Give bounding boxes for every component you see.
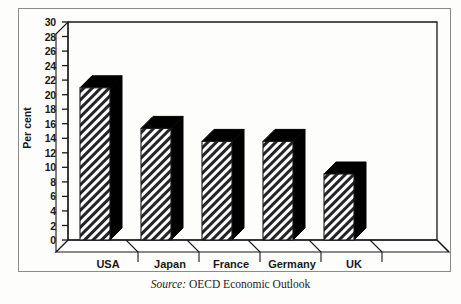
bar-japan-side — [171, 116, 183, 240]
bar-france[interactable] — [202, 129, 244, 240]
x-tick-label-france: France — [201, 258, 261, 270]
chart-page: 30 28 26 24 22 20 18 16 14 12 10 8 6 4 2… — [0, 0, 461, 304]
x-tick-label-usa: USA — [78, 258, 138, 270]
x-tick-label-uk: UK — [324, 258, 384, 270]
y-tick-label: 0 — [34, 235, 56, 245]
y-tick-label: 12 — [34, 148, 56, 158]
bar-france-face — [202, 141, 232, 240]
bar-uk-side — [354, 162, 366, 240]
bar-uk-face — [324, 174, 354, 240]
bar-usa-side — [110, 76, 122, 240]
y-tick-label: 18 — [34, 104, 56, 114]
plot-left-wall — [56, 22, 68, 252]
bar-japan-face — [141, 128, 171, 240]
bar-germany-side — [293, 129, 305, 240]
bar-japan[interactable] — [141, 116, 183, 240]
y-tick-label: 4 — [34, 206, 56, 216]
y-tick-label: 8 — [34, 177, 56, 187]
bar-usa[interactable] — [80, 76, 122, 240]
y-axis-title: Per cent — [21, 93, 33, 163]
x-tick-label-germany: Germany — [260, 258, 324, 270]
y-tick-label: 22 — [34, 75, 56, 85]
bar-usa-face — [80, 88, 110, 240]
y-tick-label: 16 — [34, 119, 56, 129]
y-tick-label: 14 — [34, 133, 56, 143]
y-tick-label: 20 — [34, 90, 56, 100]
y-tick-label: 26 — [34, 46, 56, 56]
plot-floor — [56, 240, 449, 252]
bar-germany[interactable] — [263, 129, 305, 240]
y-tick-label: 24 — [34, 61, 56, 71]
y-tick-label: 30 — [34, 17, 56, 27]
plot-back-wall — [68, 22, 437, 240]
y-tick-label: 28 — [34, 32, 56, 42]
bar-germany-face — [263, 141, 293, 240]
y-tick-label: 10 — [34, 162, 56, 172]
bar-france-side — [232, 129, 244, 240]
bar-uk[interactable] — [324, 162, 366, 240]
x-tick-label-japan: Japan — [140, 258, 200, 270]
y-tick-label: 2 — [34, 221, 56, 231]
y-tick-label: 6 — [34, 191, 56, 201]
source-text: OECD Economic Outlook — [186, 278, 310, 290]
source-keyword: Source: — [151, 278, 186, 290]
source-note: Source: OECD Economic Outlook — [0, 278, 461, 290]
